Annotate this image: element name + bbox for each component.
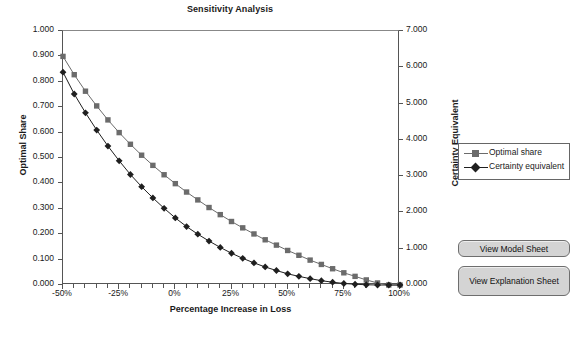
data-point-diamond: [329, 279, 336, 286]
y-axis-tick-label-left: 0.200: [18, 228, 54, 237]
data-point-square: [206, 205, 211, 210]
data-point-square: [330, 266, 335, 271]
legend-item-certainty-equivalent: Certainty equivalent: [463, 161, 565, 174]
y-axis-tick-label-right: 2.000: [406, 206, 442, 215]
data-point-square: [319, 262, 324, 267]
y-axis-tick-label-right: 5.000: [406, 98, 442, 107]
y-axis-tick-label-right: 7.000: [406, 25, 442, 34]
data-point-square: [60, 54, 65, 59]
legend-label-certainty-equivalent: Certainty equivalent: [489, 161, 564, 171]
y-axis-tick-label-left: 0.000: [18, 279, 54, 288]
y-axis-title-left: Optimal Share: [18, 75, 28, 215]
data-point-diamond: [228, 250, 235, 257]
x-axis-tick-label: 50%: [265, 288, 309, 298]
y-axis-tick-label-right: 0.000: [406, 279, 442, 288]
y-axis-tick-label-left: 0.600: [18, 127, 54, 136]
x-axis-tick-label: -25%: [96, 288, 140, 298]
data-point-square: [274, 242, 279, 247]
data-point-diamond: [262, 264, 269, 271]
data-point-diamond: [251, 260, 258, 267]
y-axis-tick-label-left: 0.500: [18, 152, 54, 161]
legend-label-optimal-share: Optimal share: [489, 147, 542, 157]
data-point-square: [173, 181, 178, 186]
chart-title: Sensitivity Analysis: [0, 4, 460, 14]
data-point-diamond: [60, 69, 67, 76]
data-point-square: [307, 257, 312, 262]
data-point-diamond: [273, 267, 280, 274]
y-axis-tick-label-left: 0.900: [18, 50, 54, 59]
data-point-square: [72, 72, 77, 77]
data-point-diamond: [284, 270, 291, 277]
y-axis-tick-label-right: 4.000: [406, 134, 442, 143]
data-point-square: [352, 274, 357, 279]
view-model-sheet-button[interactable]: View Model Sheet: [458, 240, 570, 257]
chart-legend: Optimal share Certainty equivalent: [458, 143, 570, 180]
y-axis-tick-label-right: 6.000: [406, 61, 442, 70]
y-axis-tick-label-left: 0.800: [18, 76, 54, 85]
data-point-diamond: [296, 273, 303, 280]
data-point-square: [128, 142, 133, 147]
data-point-square: [83, 89, 88, 94]
data-point-diamond: [307, 275, 314, 282]
y-axis-tick-label-left: 0.100: [18, 254, 54, 263]
data-point-diamond: [217, 244, 224, 251]
plot-area: [62, 30, 399, 284]
data-point-diamond: [318, 277, 325, 284]
data-point-square: [184, 189, 189, 194]
x-axis-title: Percentage Increase in Loss: [62, 304, 399, 314]
x-axis-tick-label: 0%: [152, 288, 196, 298]
data-point-diamond: [82, 109, 89, 116]
data-point-square: [161, 172, 166, 177]
data-point-diamond: [340, 280, 347, 287]
x-axis-tick-label: 100%: [377, 288, 421, 298]
diamond-marker-icon: [463, 162, 489, 174]
square-marker-icon: [463, 148, 489, 160]
x-axis-tick-label: 75%: [321, 288, 365, 298]
data-point-square: [341, 270, 346, 275]
data-point-diamond: [239, 255, 246, 262]
y-axis-tick-label-right: 1.000: [406, 243, 442, 252]
x-axis-tick-label: 25%: [209, 288, 253, 298]
data-point-diamond: [352, 281, 359, 288]
y-axis-tick-label-left: 1.000: [18, 25, 54, 34]
y-axis-tick-label-right: 3.000: [406, 170, 442, 179]
y-axis-tick-label-left: 0.400: [18, 177, 54, 186]
legend-item-optimal-share: Optimal share: [463, 147, 565, 160]
data-point-square: [218, 212, 223, 217]
series-plot: [63, 31, 400, 285]
data-point-square: [240, 225, 245, 230]
data-point-square: [285, 248, 290, 253]
data-point-diamond: [206, 238, 213, 245]
data-point-diamond: [194, 231, 201, 238]
data-point-square: [229, 219, 234, 224]
data-point-diamond: [71, 91, 78, 98]
data-point-square: [263, 237, 268, 242]
y-axis-tick-label-left: 0.300: [18, 203, 54, 212]
data-point-square: [150, 163, 155, 168]
data-point-square: [195, 197, 200, 202]
data-point-square: [139, 153, 144, 158]
y-axis-tick-label-left: 0.700: [18, 101, 54, 110]
data-point-square: [251, 231, 256, 236]
data-point-diamond: [93, 127, 100, 134]
x-axis-tick-label: -50%: [40, 288, 84, 298]
data-point-square: [105, 117, 110, 122]
data-point-square: [296, 253, 301, 258]
sensitivity-analysis-chart: Sensitivity Analysis Optimal Share Certa…: [0, 0, 582, 339]
view-explanation-sheet-button[interactable]: View Explanation Sheet: [458, 266, 570, 296]
data-point-square: [116, 130, 121, 135]
data-point-square: [94, 103, 99, 108]
